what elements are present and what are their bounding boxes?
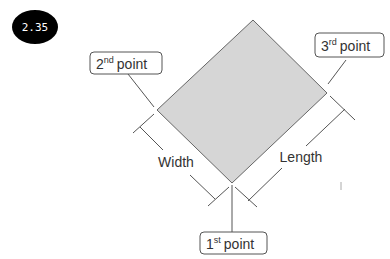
third-point-label: 3rdpoint xyxy=(315,33,384,57)
third-point-leader xyxy=(328,60,346,84)
length-label: Length xyxy=(280,149,323,165)
second-point-leader xyxy=(128,74,154,107)
rectangle-three-point-diagram: 2.35 Width Length 2ndpoint 3rdpoint xyxy=(0,0,390,259)
second-point-label: 2ndpoint xyxy=(90,52,162,74)
figure-number-badge: 2.35 xyxy=(12,10,58,44)
badge-label: 2.35 xyxy=(22,21,49,34)
svg-text:3rdpoint: 3rdpoint xyxy=(321,37,370,54)
svg-text:1stpoint: 1stpoint xyxy=(206,235,254,252)
width-label: Width xyxy=(158,154,194,170)
svg-text:2ndpoint: 2ndpoint xyxy=(96,55,147,72)
first-point-label: 1stpoint xyxy=(200,232,267,254)
